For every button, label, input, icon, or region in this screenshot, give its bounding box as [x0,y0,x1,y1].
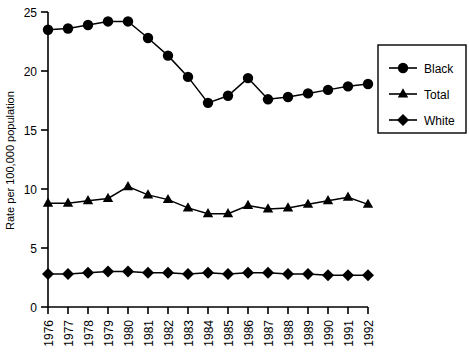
x-tick-label: 1987 [262,320,276,347]
diamond-marker [362,269,374,281]
x-axis-tick-labels: 1976197719781979198019811982198319841985… [42,320,376,347]
diamond-marker [262,267,274,279]
y-tick-label: 5 [30,242,37,256]
diamond-marker [82,267,94,279]
triangle-marker [103,193,113,202]
circle-marker [63,23,73,33]
series-line-black [48,21,368,102]
x-tick-label: 1978 [82,320,96,347]
x-axis-ticks [48,307,368,314]
series-markers-black [43,16,373,108]
diamond-marker [102,266,114,278]
x-tick-label: 1979 [102,320,116,347]
x-tick-label: 1988 [282,320,296,347]
triangle-marker [43,197,53,206]
series-markers [42,16,374,281]
circle-marker [343,81,353,91]
x-tick-label: 1983 [182,320,196,347]
series-markers-white [42,266,374,282]
diamond-marker [162,267,174,279]
circle-marker [123,16,133,26]
plot-area: 0510152025 19761977197819791980198119821… [24,6,376,347]
x-tick-label: 1992 [362,320,376,347]
y-axis-tick-labels: 0510152025 [24,6,38,315]
line-chart-figure: 0510152025 19761977197819791980198119821… [0,0,469,355]
diamond-marker [62,268,74,280]
legend-label: White [424,114,455,128]
triangle-marker [243,200,253,209]
y-tick-label: 25 [24,6,38,20]
legend-label: Black [424,62,454,76]
y-axis-title: Rate per 100,000 population [4,91,16,230]
circle-marker [43,25,53,35]
diamond-marker [142,267,154,279]
y-axis-ticks [41,12,48,307]
x-tick-label: 1976 [42,320,56,347]
diamond-marker [182,268,194,280]
circle-marker [103,16,113,26]
x-tick-label: 1985 [222,320,236,347]
circle-marker [398,63,408,73]
series-markers-total [43,181,373,217]
legend-box: BlackTotalWhite [378,45,466,133]
x-tick-label: 1990 [322,320,336,347]
diamond-marker [302,268,314,280]
circle-marker [223,91,233,101]
circle-marker [363,79,373,89]
circle-marker [183,72,193,82]
circle-marker [203,98,213,108]
diamond-marker [42,268,54,280]
diamond-marker [342,269,354,281]
y-tick-label: 20 [24,65,38,79]
circle-marker [143,33,153,43]
diamond-marker [222,268,234,280]
circle-marker [283,92,293,102]
x-tick-label: 1980 [122,320,136,347]
circle-marker [243,73,253,83]
circle-marker [83,20,93,30]
y-tick-label: 10 [24,183,38,197]
y-tick-label: 0 [30,301,37,315]
diamond-marker [282,268,294,280]
x-tick-label: 1991 [342,320,356,347]
legend-label: Total [424,88,449,102]
circle-marker [303,88,313,98]
x-tick-label: 1984 [202,320,216,347]
y-tick-label: 15 [24,124,38,138]
x-tick-label: 1981 [142,320,156,347]
diamond-marker [202,267,214,279]
x-tick-label: 1989 [302,320,316,347]
circle-marker [263,94,273,104]
series-lines [48,21,368,275]
diamond-marker [122,266,134,278]
circle-marker [163,50,173,60]
x-tick-label: 1986 [242,320,256,347]
triangle-marker [343,192,353,201]
diamond-marker [242,267,254,279]
diamond-marker [322,269,334,281]
x-tick-label: 1977 [62,320,76,347]
x-tick-label: 1982 [162,320,176,347]
triangle-marker [123,181,133,190]
circle-marker [323,85,333,95]
